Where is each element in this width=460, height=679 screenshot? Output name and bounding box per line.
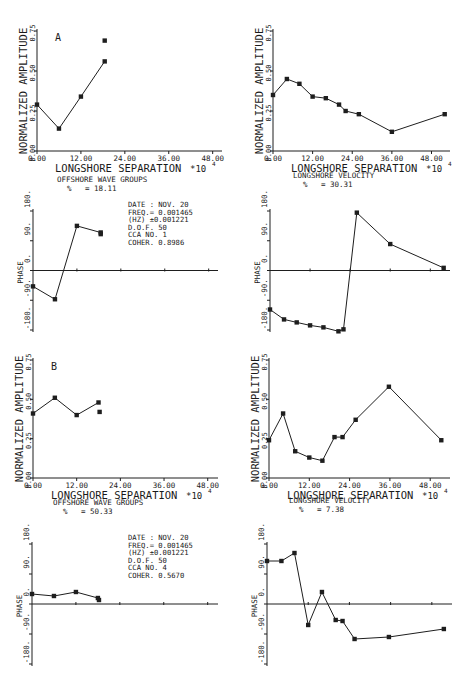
info-line: COHER. 0.5670: [128, 571, 184, 580]
percent-label: %: [303, 180, 308, 189]
data-line: [270, 213, 444, 332]
data-point-marker: [271, 93, 275, 97]
y-tick-label: 0.50: [265, 65, 273, 82]
x-multiplier: *10: [422, 491, 438, 501]
data-point-marker: [336, 329, 340, 333]
percent-label: %: [63, 507, 68, 516]
data-line: [33, 398, 99, 415]
extra-point-marker: [97, 410, 101, 414]
percent-value: = 18.11: [85, 184, 117, 193]
data-point-marker: [265, 559, 269, 563]
data-point-marker: [340, 435, 344, 439]
data-point-marker: [442, 112, 446, 116]
y-tick-label: 90.: [260, 222, 269, 236]
percent-value: = 50.33: [81, 507, 113, 516]
data-point-marker: [308, 323, 312, 327]
y-axis-label: NORMALIZED AMPLITUDE: [249, 356, 261, 482]
x-multiplier-exponent: 4: [212, 160, 216, 167]
x-multiplier: *10: [426, 164, 442, 174]
x-tick-label: 0.00: [260, 481, 279, 490]
data-point-marker: [297, 82, 301, 86]
plot-B-velocity-amp: 0.000.250.500.750.0012.0024.0036.0048.00…: [249, 354, 450, 514]
data-point-marker: [321, 325, 325, 329]
data-point-marker: [341, 327, 345, 331]
data-point-marker: [340, 619, 344, 623]
data-point-marker: [53, 297, 57, 301]
data-point-marker: [442, 627, 446, 631]
series-title: OFFSHORE WAVE GROUPS: [57, 175, 148, 184]
x-axis-label: LONGSHORE SEPARATION: [55, 162, 181, 174]
data-point-marker: [353, 418, 357, 422]
data-point-marker: [285, 77, 289, 81]
extra-point-marker: [97, 598, 101, 602]
y-tick-label: 0.50: [261, 393, 269, 410]
y-tick-label: -180.: [23, 307, 32, 330]
data-point-marker: [439, 438, 443, 442]
data-point-marker: [103, 59, 107, 63]
percent-value: = 7.38: [317, 505, 345, 514]
data-point-marker: [279, 559, 283, 563]
data-point-marker: [387, 385, 391, 389]
y-tick-label: 0.75: [25, 354, 33, 371]
x-tick-label: 0.00: [28, 154, 47, 163]
info-line: COHER. 0.8986: [128, 238, 184, 247]
data-point-marker: [74, 590, 78, 594]
data-point-marker: [31, 411, 35, 415]
data-point-marker: [31, 284, 35, 288]
data-point-marker: [267, 438, 271, 442]
data-point-marker: [295, 320, 299, 324]
y-tick-label: -180.: [257, 641, 266, 664]
y-tick-label: 0.50: [25, 393, 33, 410]
data-point-marker: [53, 396, 57, 400]
extra-point-marker: [99, 232, 103, 236]
percent-label: %: [299, 505, 304, 514]
data-point-marker: [307, 455, 311, 459]
y-tick-label: 0.75: [29, 25, 37, 42]
y-axis-label: NORMALIZED AMPLITUDE: [13, 356, 25, 482]
x-tick-label: 0.00: [24, 481, 43, 490]
y-tick-label: 180.: [257, 523, 266, 541]
data-point-marker: [282, 317, 286, 321]
data-point-marker: [35, 102, 39, 106]
data-point-marker: [387, 635, 391, 639]
y-tick-label: 0.75: [265, 25, 273, 42]
extra-point-marker: [103, 38, 107, 42]
data-point-marker: [343, 109, 347, 113]
plot-A-offshore-phase: -180.-90.0.90.180.PHASEDATE : NOV. 20FRE…: [16, 190, 218, 332]
data-line: [37, 61, 105, 128]
plot-B-offshore-amp: 0.000.250.500.750.0012.0024.0036.0048.00…: [13, 354, 219, 516]
plot-B-velocity-phase: -180.-90.0.90.180.PHASE: [250, 523, 452, 666]
data-point-marker: [292, 551, 296, 555]
x-multiplier-exponent: 4: [444, 487, 448, 494]
x-tick-label: 48.00: [420, 154, 443, 163]
y-tick-label: 180.: [260, 190, 269, 208]
y-axis-label: PHASE: [15, 594, 24, 617]
y-tick-label: 180.: [22, 523, 31, 541]
y-axis-label: NORMALIZED AMPLITUDE: [17, 28, 29, 154]
series-title: OFFSHORE WAVE GROUPS: [53, 498, 144, 507]
y-axis-label: PHASE: [16, 261, 25, 284]
y-tick-label: 0.25: [25, 432, 33, 449]
data-point-marker: [324, 96, 328, 100]
y-axis-label: NORMALIZED AMPLITUDE: [253, 28, 265, 154]
data-point-marker: [388, 242, 392, 246]
series-title: LONGSHORE VELOCITY: [293, 171, 375, 180]
data-point-marker: [357, 112, 361, 116]
panel-label: A: [55, 32, 61, 43]
data-point-marker: [337, 102, 341, 106]
data-point-marker: [306, 623, 310, 627]
data-line: [273, 79, 445, 132]
data-point-marker: [352, 637, 356, 641]
data-point-marker: [52, 594, 56, 598]
x-tick-label: 48.00: [419, 481, 442, 490]
y-tick-label: 0.25: [29, 105, 37, 122]
x-multiplier: *10: [190, 164, 206, 174]
y-tick-label: -180.: [260, 307, 269, 330]
figure-canvas: 0.000.250.500.750.0012.0024.0036.0048.00…: [0, 0, 460, 679]
data-point-marker: [355, 210, 359, 214]
y-tick-label: 90.: [257, 555, 266, 569]
data-point-marker: [79, 94, 83, 98]
data-point-marker: [441, 266, 445, 270]
data-point-marker: [96, 400, 100, 404]
data-point-marker: [281, 411, 285, 415]
